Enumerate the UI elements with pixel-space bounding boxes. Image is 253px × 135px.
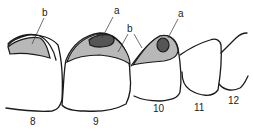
- tooth-8: [6, 34, 62, 111]
- tooth-10: [131, 36, 181, 102]
- dental-diagram: b a b a 8 9 10 11 12: [0, 0, 253, 135]
- tooth-12-top: [221, 33, 247, 53]
- tooth-number-12: 12: [228, 95, 240, 106]
- tooth-number-11: 11: [194, 102, 205, 113]
- tooth-number-10: 10: [153, 103, 165, 114]
- leader-b-center-2: [134, 34, 142, 48]
- tooth-number-9: 9: [93, 116, 99, 127]
- region-b-tooth-10: [133, 36, 178, 65]
- tooth-11-outline: [180, 39, 221, 95]
- label-b-center: b: [127, 23, 133, 34]
- tooth-number-8: 8: [30, 116, 36, 127]
- label-b-left: b: [42, 7, 48, 18]
- label-a-tooth9: a: [114, 5, 120, 16]
- tooth-12-bottom: [219, 76, 248, 90]
- leader-a-tooth10: [168, 19, 178, 38]
- region-a-tooth-10: [157, 38, 169, 52]
- tooth-9: [62, 33, 131, 111]
- label-a-tooth10: a: [178, 8, 184, 19]
